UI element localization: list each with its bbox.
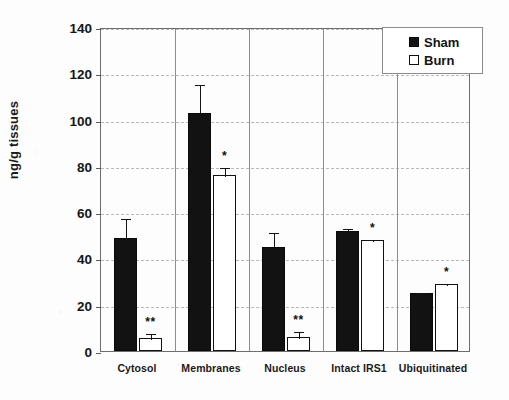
- error-bar-cap: [417, 293, 427, 294]
- y-tick-mark: [96, 307, 101, 308]
- y-axis-title: ng/g tissues: [6, 80, 21, 200]
- y-tick-label: 80: [46, 159, 92, 174]
- significance-marker: *: [222, 150, 227, 162]
- y-tick-label: 140: [46, 21, 92, 36]
- y-tick-mark: [96, 260, 101, 261]
- legend-entry-sham: Sham: [409, 33, 482, 51]
- error-bar-cap: [294, 332, 304, 333]
- legend-entry-burn: Burn: [409, 51, 482, 69]
- x-axis-label-cytosol: Cytosol: [117, 362, 156, 374]
- y-tick-mark: [96, 353, 101, 354]
- y-tick-label: 120: [46, 67, 92, 82]
- hollow-square-icon: [409, 55, 419, 65]
- gridline: [101, 75, 469, 76]
- plot-area: *******: [100, 28, 470, 352]
- error-bar: [126, 219, 127, 240]
- error-bar: [200, 85, 201, 115]
- bar-burn-nucleus: [287, 337, 310, 351]
- error-bar-cap: [343, 229, 353, 230]
- y-tick-mark: [96, 122, 101, 123]
- x-axis-separator: [397, 29, 398, 351]
- error-bar-cap: [220, 168, 230, 169]
- gridline: [101, 168, 469, 169]
- error-bar-cap: [368, 240, 378, 241]
- x-axis-separator: [323, 29, 324, 351]
- bar-burn-intact-irs1: [361, 240, 384, 351]
- y-tick-label: 60: [46, 206, 92, 221]
- x-axis-label-ubiquitinated: Ubiquitinated: [399, 362, 467, 374]
- bar-sham-nucleus: [262, 247, 285, 351]
- y-tick-label: 0: [46, 345, 92, 360]
- y-tick-label: 100: [46, 113, 92, 128]
- x-axis-label-intact-irs1: Intact IRS1: [331, 362, 386, 374]
- bar-burn-membranes: [213, 175, 236, 351]
- bar-sham-ubiquitinated: [410, 293, 433, 351]
- y-tick-mark: [96, 29, 101, 30]
- y-tick-mark: [96, 75, 101, 76]
- y-tick-mark: [96, 168, 101, 169]
- x-axis-label-membranes: Membranes: [181, 362, 240, 374]
- gridline: [101, 214, 469, 215]
- significance-marker: **: [293, 314, 303, 326]
- error-bar-cap: [146, 334, 156, 335]
- y-tick-mark: [96, 214, 101, 215]
- error-bar-cap: [442, 284, 452, 285]
- bar-burn-ubiquitinated: [435, 284, 458, 351]
- gridline: [101, 122, 469, 123]
- bar-sham-membranes: [188, 113, 211, 351]
- error-bar: [274, 233, 275, 249]
- chart-legend: Sham Burn: [382, 27, 483, 74]
- x-axis-separator: [249, 29, 250, 351]
- significance-marker: **: [145, 316, 155, 328]
- significance-marker: *: [444, 266, 449, 278]
- significance-marker: *: [370, 222, 375, 234]
- error-bar-cap: [121, 219, 131, 220]
- filled-square-icon: [409, 37, 419, 47]
- y-tick-label: 40: [46, 252, 92, 267]
- error-bar-cap: [195, 85, 205, 86]
- bar-sham-cytosol: [114, 238, 137, 351]
- bar-sham-intact-irs1: [336, 231, 359, 351]
- x-axis-separator: [175, 29, 176, 351]
- chart-figure: ng/g tissues ******* Sham Burn 020406080…: [0, 0, 509, 400]
- error-bar: [225, 168, 226, 177]
- error-bar-cap: [269, 233, 279, 234]
- legend-label-sham: Sham: [424, 36, 459, 49]
- gridline: [101, 260, 469, 261]
- legend-label-burn: Burn: [424, 54, 454, 67]
- error-bar: [299, 332, 300, 339]
- y-tick-label: 20: [46, 298, 92, 313]
- x-axis-label-nucleus: Nucleus: [264, 362, 306, 374]
